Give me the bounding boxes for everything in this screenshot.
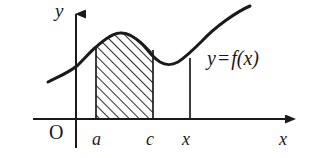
function-label-rhs: f(x) xyxy=(231,47,259,69)
x-axis-label: x xyxy=(279,130,287,148)
integral-diagram: y O a c x x y=f(x) xyxy=(0,0,315,158)
shaded-area-group xyxy=(90,25,160,125)
y-axis-label: y xyxy=(55,1,63,20)
function-label: y=f(x) xyxy=(207,48,259,68)
tick-label-c: c xyxy=(146,130,154,148)
tick-label-x: x xyxy=(182,130,190,148)
diagram-canvas xyxy=(0,0,315,158)
origin-label: O xyxy=(49,122,63,142)
function-label-operator: = xyxy=(216,47,231,69)
axes-group xyxy=(33,14,286,148)
function-label-lhs: y xyxy=(207,47,216,69)
tick-label-a: a xyxy=(92,130,101,148)
shaded-area-hatch xyxy=(90,25,160,125)
